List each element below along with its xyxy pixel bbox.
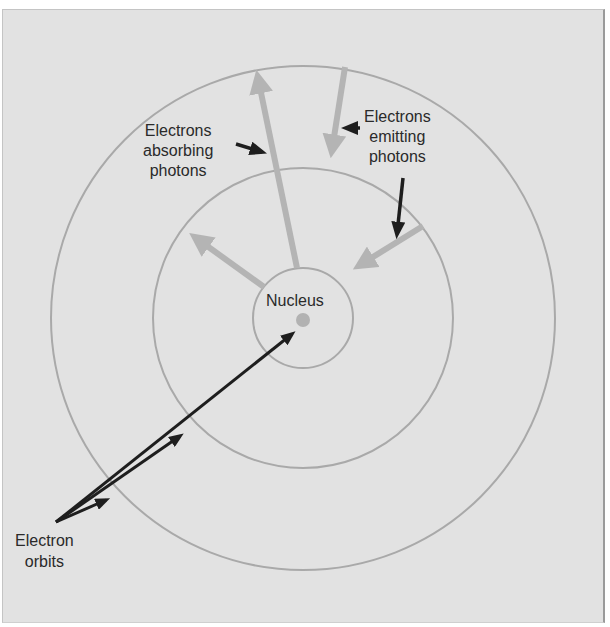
absorbing-label-line2: absorbing (143, 141, 213, 161)
absorption-arrow-inner-to-middle (196, 238, 264, 287)
emission-arrow-middle-to-inner (360, 226, 423, 265)
orbits-label-line1: Electron (15, 530, 74, 551)
absorbing-label: Electrons absorbing photons (143, 121, 213, 181)
nucleus-label: Nucleus (266, 291, 324, 311)
orbits-label-line2: orbits (15, 551, 74, 572)
emitting-label-line1: Electrons (364, 107, 431, 127)
pointer-arrow-absorbing (236, 144, 262, 152)
emitting-label-line2: emitting (364, 127, 431, 147)
absorbing-label-line1: Electrons (143, 121, 213, 141)
absorbing-label-line3: photons (143, 161, 213, 181)
pointer-arrow-orbit-middle (56, 436, 180, 522)
bohr-model-diagram (0, 0, 610, 627)
nucleus-dot (296, 313, 310, 327)
emitting-label-line3: photons (364, 147, 431, 167)
nucleus-label-text: Nucleus (266, 291, 324, 311)
pointer-arrow-orbit-inner (56, 334, 292, 522)
emission-arrow-outer-to-middle (332, 67, 345, 150)
emitting-label: Electrons emitting photons (364, 107, 431, 167)
orbits-label: Electron orbits (15, 530, 74, 572)
